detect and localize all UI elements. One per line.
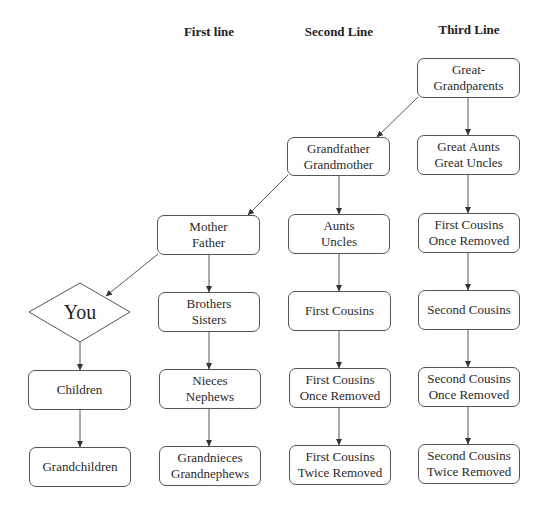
node-great-aunts-uncles: Great Aunts Great Uncles <box>417 135 520 175</box>
node-label: Great Uncles <box>434 155 502 171</box>
you-label: You <box>30 301 130 324</box>
node-parents: Mother Father <box>157 215 260 255</box>
node-label: Great Aunts <box>437 139 499 155</box>
node-label: Brothers <box>187 296 232 312</box>
node-label: Grandnieces <box>178 450 243 466</box>
node-label: Uncles <box>321 234 357 250</box>
node-label: First Cousins <box>306 372 375 388</box>
node-label: Grandmother <box>304 157 373 173</box>
header-second-line: Second Line <box>279 24 399 40</box>
node-label: Grandfather <box>307 141 370 157</box>
node-label: Grandnephews <box>171 466 249 482</box>
node-second-cousins-twice-removed: Second Cousins Twice Removed <box>418 444 520 484</box>
node-label: Second Cousins <box>427 302 510 318</box>
node-label: Nephews <box>186 389 234 405</box>
node-label: Children <box>57 382 103 398</box>
node-first-cousins-twice-removed: First Cousins Twice Removed <box>289 445 391 485</box>
node-grandparents: Grandfather Grandmother <box>287 137 390 176</box>
node-label: Mother <box>189 219 227 235</box>
node-label: Nieces <box>192 373 227 389</box>
arrow-parents-to-you <box>106 254 158 296</box>
node-siblings: Brothers Sisters <box>158 292 260 332</box>
arrow-greatgrandparents-to-grandparents <box>377 97 418 137</box>
node-label: Once Removed <box>429 233 510 249</box>
node-grandchildren: Grandchildren <box>29 447 131 487</box>
header-first-line: First line <box>149 24 269 40</box>
node-children: Children <box>28 370 131 410</box>
header-third-line: Third Line <box>409 22 529 38</box>
node-great-grandparents: Great- Grandparents <box>417 58 520 98</box>
node-label: First Cousins <box>305 303 374 319</box>
node-nieces-nephews: Nieces Nephews <box>159 369 261 409</box>
node-label: Great- <box>452 62 485 78</box>
node-label: First Cousins <box>435 217 504 233</box>
node-first-cousins-once-removed: First Cousins Once Removed <box>289 368 391 408</box>
node-first-cousins-once-removed-top: First Cousins Once Removed <box>418 213 520 253</box>
node-grandnieces-grandnephews: Grandnieces Grandnephews <box>159 446 261 486</box>
node-label: Grandchildren <box>42 459 117 475</box>
node-label: Sisters <box>192 312 227 328</box>
node-label: First Cousins <box>306 449 375 465</box>
node-label: Twice Removed <box>427 464 512 480</box>
node-label: Second Cousins <box>427 371 510 387</box>
node-label: Once Removed <box>300 388 381 404</box>
node-label: Second Cousins <box>427 448 510 464</box>
node-label: Aunts <box>323 218 354 234</box>
node-aunts-uncles: Aunts Uncles <box>288 214 390 254</box>
arrow-grandparents-to-parents <box>248 175 288 215</box>
node-second-cousins-once-removed: Second Cousins Once Removed <box>418 367 520 407</box>
node-first-cousins: First Cousins <box>288 291 391 331</box>
node-label: Grandparents <box>433 78 503 94</box>
node-second-cousins: Second Cousins <box>418 290 520 330</box>
node-label: Father <box>192 235 225 251</box>
node-label: Once Removed <box>429 387 510 403</box>
node-label: Twice Removed <box>298 465 383 481</box>
